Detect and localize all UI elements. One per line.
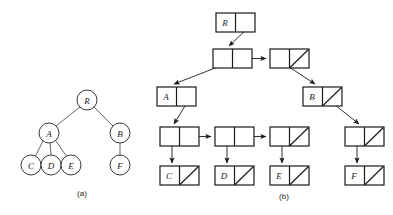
tree-node-D: D [41, 155, 61, 175]
tree-node-D-label: D [47, 161, 55, 171]
tree-node-E: E [61, 155, 81, 175]
box-C: C [160, 166, 199, 185]
panel-b-caption: (b) [279, 192, 289, 201]
tree-node-C-label: C [28, 161, 35, 171]
box-F: F [345, 166, 384, 185]
box-A: A [157, 87, 196, 106]
box-c3 [270, 127, 309, 146]
box-r2 [270, 49, 309, 68]
tree-node-F: F [110, 155, 130, 175]
box-E: E [270, 166, 309, 185]
panel-a-caption: (a) [77, 189, 87, 198]
box-D: D [215, 166, 254, 185]
box-B: B [303, 87, 342, 106]
tree-node-B: B [110, 123, 130, 143]
tree-node-A-label: A [45, 129, 52, 139]
box-A-label: A [162, 92, 169, 102]
box-D-label: D [220, 171, 228, 181]
box-c2 [215, 127, 254, 146]
tree-node-E-label: E [67, 161, 74, 171]
box-r1 [213, 49, 252, 68]
box-F-label: F [350, 171, 357, 181]
box-C-label: C [166, 171, 173, 181]
box-E-label: E [275, 171, 282, 181]
box-c4 [345, 127, 384, 146]
tree-node-R: R [77, 90, 97, 110]
tree-node-A: A [39, 123, 59, 143]
tree-node-B-label: B [117, 129, 123, 139]
box-B-label: B [309, 92, 315, 102]
box-c1 [160, 127, 199, 146]
tree-node-R-label: R [83, 96, 90, 106]
box-R: R [216, 13, 255, 32]
box-R-label: R [221, 18, 228, 28]
tree-node-F-label: F [116, 161, 123, 171]
tree-linked-list-figure: R A B C D E F [0, 0, 393, 215]
tree-node-C: C [21, 155, 41, 175]
